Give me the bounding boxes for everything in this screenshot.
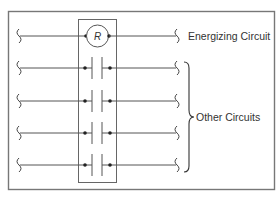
- relay-label: R: [94, 31, 101, 42]
- contact-row-1: [17, 57, 179, 79]
- contact-row-3: [17, 122, 179, 144]
- terminal-dot: [108, 163, 112, 167]
- terminal-dot: [108, 66, 112, 70]
- contact-row-4: [17, 154, 179, 176]
- contact-row-2: [17, 90, 179, 112]
- terminal-dot: [108, 99, 112, 103]
- terminal-dot: [108, 131, 112, 135]
- terminal-dot: [83, 131, 87, 135]
- energizing-circuit-row: R Energizing Circuit: [17, 25, 270, 47]
- terminal-dot: [83, 99, 87, 103]
- terminal-dot: [83, 66, 87, 70]
- energizing-circuit-label: Energizing Circuit: [188, 30, 270, 42]
- curly-brace-icon: [184, 62, 194, 172]
- terminal-dot: [83, 163, 87, 167]
- relay-diagram: R Energizing Circuit: [0, 0, 280, 198]
- other-circuits-label: Other Circuits: [196, 111, 260, 123]
